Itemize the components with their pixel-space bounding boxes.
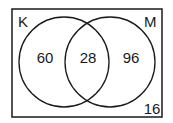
- m-only-value: 96: [123, 49, 140, 66]
- intersection-value: 28: [80, 49, 97, 66]
- outside-value: 16: [144, 100, 161, 117]
- set-k-label: K: [18, 13, 28, 30]
- k-only-value: 60: [37, 49, 54, 66]
- set-m-label: M: [144, 13, 157, 30]
- set-m-circle: [65, 17, 155, 107]
- venn-diagram: K M 60 28 96 16: [0, 0, 173, 123]
